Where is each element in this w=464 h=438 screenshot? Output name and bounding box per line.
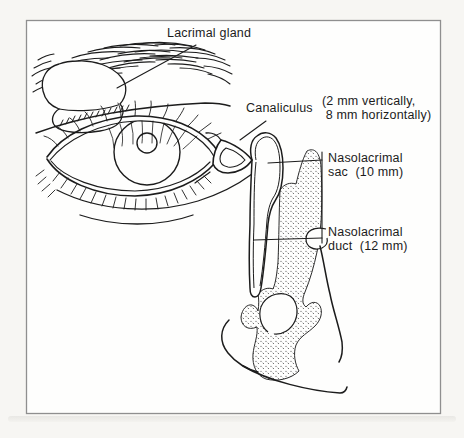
anatomy-drawing [0,0,464,438]
iris-and-pupil [114,119,180,185]
pupil [137,133,157,153]
figure: Lacrimal gland Canaliculus (2 mm vertica… [0,0,464,438]
canaliculus-dimensions-label: (2 mm vertically, 8 mm horizontally) [322,95,431,122]
lacrimal-gland-label: Lacrimal gland [167,27,251,41]
canaliculus-label: Canaliculus [246,102,313,116]
nasolacrimal-sac-label: Nasolacrimal sac (10 mm) [328,152,403,179]
nasolacrimal-duct-label: Nasolacrimal duct (12 mm) [328,226,408,253]
lacrimal-gland-drawing [42,61,125,133]
scan-shadow [8,416,456,422]
